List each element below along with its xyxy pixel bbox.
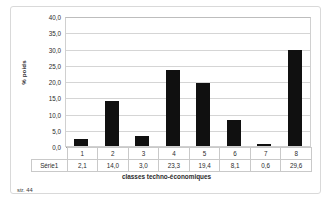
bar-slot-1: [66, 18, 97, 146]
y-axis-tick-20,0: 20,0: [31, 79, 61, 86]
bar-2[interactable]: [105, 101, 119, 147]
category-cell-1: 1: [67, 148, 98, 160]
category-cell-4: 4: [159, 148, 190, 160]
bar-4[interactable]: [166, 70, 180, 146]
y-axis-tick-40,0: 40,0: [31, 14, 61, 21]
plot-area: [65, 17, 311, 147]
value-cell-1: 2,1: [67, 160, 98, 172]
table-corner-cell: [32, 148, 68, 160]
value-cell-8: 29,6: [281, 160, 312, 172]
chart-data-table: 12345678 Série1 2,114,03,023,319,48,10,6…: [31, 147, 312, 172]
page-footer-note: str. 44: [17, 187, 33, 193]
y-axis-tick-25,0: 25,0: [31, 62, 61, 69]
table-row-values: Série1 2,114,03,023,319,48,10,629,6: [32, 160, 312, 172]
value-cell-5: 19,4: [189, 160, 220, 172]
bar-slot-6: [219, 18, 250, 146]
value-cell-7: 0,6: [250, 160, 281, 172]
value-cell-3: 3,0: [128, 160, 159, 172]
bar-6[interactable]: [227, 120, 241, 146]
series-name-cell: Série1: [32, 160, 68, 172]
chart-figure-frame: % poids 40,035,030,025,020,015,010,05,00…: [10, 6, 321, 194]
y-axis-title: % poids: [20, 43, 27, 103]
chart-plot-wrapper: % poids 40,035,030,025,020,015,010,05,00…: [11, 7, 322, 195]
y-axis-tick-labels: 40,035,030,025,020,015,010,05,00,0: [31, 17, 61, 147]
bar-series: [66, 18, 310, 146]
bar-8[interactable]: [288, 50, 302, 146]
table-row-categories: 12345678: [32, 148, 312, 160]
category-cell-2: 2: [98, 148, 129, 160]
value-cell-4: 23,3: [159, 160, 190, 172]
y-axis-tick-15,0: 15,0: [31, 95, 61, 102]
y-axis-tick-30,0: 30,0: [31, 46, 61, 53]
x-axis-title: classes techno-économiques: [11, 173, 322, 180]
bar-slot-7: [249, 18, 280, 146]
bar-slot-8: [280, 18, 311, 146]
bar-slot-3: [127, 18, 158, 146]
y-axis-tick-10,0: 10,0: [31, 111, 61, 118]
category-cell-6: 6: [220, 148, 251, 160]
bar-5[interactable]: [196, 83, 210, 146]
bar-1[interactable]: [74, 139, 88, 146]
bar-3[interactable]: [135, 136, 149, 146]
bar-slot-2: [97, 18, 128, 146]
category-cell-7: 7: [250, 148, 281, 160]
value-cell-2: 14,0: [98, 160, 129, 172]
y-axis-tick-35,0: 35,0: [31, 30, 61, 37]
y-axis-tick-5,0: 5,0: [31, 127, 61, 134]
bar-slot-4: [158, 18, 189, 146]
value-cell-6: 8,1: [220, 160, 251, 172]
bar-slot-5: [188, 18, 219, 146]
category-cell-3: 3: [128, 148, 159, 160]
category-cell-8: 8: [281, 148, 312, 160]
category-cell-5: 5: [189, 148, 220, 160]
bar-7[interactable]: [257, 144, 271, 146]
